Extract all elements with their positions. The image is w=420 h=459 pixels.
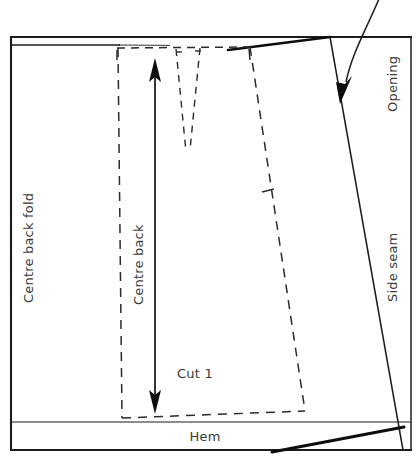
label-centre-back: Centre back: [131, 224, 146, 305]
pattern-corner-tick-tr: [249, 49, 250, 60]
pattern-layout-diagram: Centre back fold Centre back Cut 1 Hem S…: [0, 0, 420, 459]
bottom-bias-mark: [272, 427, 404, 452]
dart-right-leg: [190, 48, 200, 150]
label-centre-back-fold: Centre back fold: [21, 193, 36, 303]
pattern-hem-edge: [122, 411, 305, 418]
dart-left-leg: [176, 49, 186, 152]
fabric-outline: [10, 36, 412, 451]
waist-dart: [176, 48, 201, 152]
label-opening: Opening: [385, 56, 400, 112]
pattern-side-edge: [250, 47, 305, 411]
pattern-centre-back-edge: [118, 48, 122, 418]
label-cut-quantity: Cut 1: [177, 366, 213, 381]
opening-leader-arrowhead: [336, 76, 352, 104]
bias-marks: [228, 37, 404, 452]
pattern-layout-canvas: Centre back fold Centre back Cut 1 Hem S…: [0, 0, 420, 459]
label-hem: Hem: [189, 429, 220, 444]
centre-back-grainline: [149, 58, 161, 414]
top-bias-mark: [228, 37, 330, 50]
opening-leader-curve: [346, 0, 381, 82]
label-side-seam: Side seam: [385, 233, 400, 302]
opening-callout-arrow: [336, 0, 381, 104]
pattern-top-edge: [117, 47, 250, 48]
